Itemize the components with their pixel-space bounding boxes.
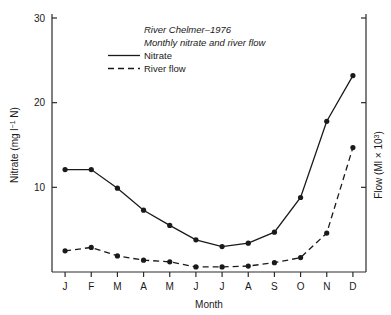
- x-tick-label: M: [113, 281, 121, 292]
- y-tick-label-left: 20: [34, 97, 46, 108]
- data-point: [193, 237, 198, 242]
- data-point: [246, 241, 251, 246]
- data-point: [62, 167, 67, 172]
- data-point: [141, 258, 146, 263]
- data-point: [141, 208, 146, 213]
- x-tick-label: J: [220, 281, 225, 292]
- chart-container: 102030JFMAMJJASONDMonthNitrate (mg l−1 N…: [0, 0, 391, 315]
- y-axis-title-left: Nitrate (mg l−1 N): [9, 107, 20, 183]
- x-tick-label: M: [166, 281, 174, 292]
- x-tick-label: O: [297, 281, 305, 292]
- x-tick-label: A: [140, 281, 147, 292]
- data-point: [272, 230, 277, 235]
- legend-title: River Chelmer–1976: [144, 24, 232, 35]
- line-chart: 102030JFMAMJJASONDMonthNitrate (mg l−1 N…: [0, 0, 391, 315]
- data-point: [193, 264, 198, 269]
- data-point: [298, 255, 303, 260]
- y-tick-label-left: 10: [34, 182, 46, 193]
- data-point: [350, 73, 355, 78]
- data-point: [246, 263, 251, 268]
- data-point: [115, 253, 120, 258]
- data-point: [167, 259, 172, 264]
- y-tick-label-left: 30: [34, 13, 46, 24]
- x-tick-label: F: [88, 281, 94, 292]
- legend-label-nitrate: Nitrate: [144, 50, 172, 61]
- data-point: [89, 245, 94, 250]
- series-line-nitrate: [65, 76, 353, 247]
- data-point: [167, 223, 172, 228]
- y-axis-title-right: Flow (Ml × 103): [373, 131, 384, 199]
- x-tick-label: N: [323, 281, 330, 292]
- data-point: [62, 248, 67, 253]
- data-point: [324, 119, 329, 124]
- data-point: [272, 260, 277, 265]
- data-point: [350, 145, 355, 150]
- x-tick-label: J: [63, 281, 68, 292]
- x-axis-title: Month: [195, 299, 223, 310]
- data-point: [298, 195, 303, 200]
- data-point: [219, 264, 224, 269]
- x-tick-label: S: [271, 281, 278, 292]
- data-point: [324, 230, 329, 235]
- x-tick-label: J: [193, 281, 198, 292]
- data-point: [115, 186, 120, 191]
- x-tick-label: A: [245, 281, 252, 292]
- legend-subtitle: Monthly nitrate and river flow: [144, 37, 267, 48]
- data-point: [219, 244, 224, 249]
- data-point: [89, 167, 94, 172]
- series-line-river-flow: [65, 148, 353, 267]
- legend-label-river-flow: River flow: [144, 63, 186, 74]
- x-tick-label: D: [349, 281, 356, 292]
